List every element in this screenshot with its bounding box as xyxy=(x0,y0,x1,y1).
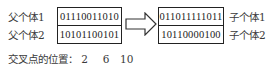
crossover-label: 交叉点的位置： xyxy=(8,53,78,65)
parent-chromosome-box: 01110011010 10101100101 xyxy=(57,7,122,44)
child-1-label: 子个体1 xyxy=(229,11,266,23)
crossover-positions: 交叉点的位置： 2 6 10 xyxy=(8,51,133,66)
child-2-chromosome: 10110000100 xyxy=(159,26,223,44)
crossover-position-1: 2 xyxy=(81,53,99,65)
child-2-label: 子个体2 xyxy=(229,29,266,41)
parent-2-chromosome: 10101100101 xyxy=(58,26,121,44)
crossover-position-2: 6 xyxy=(103,53,117,65)
crossover-position-3: 10 xyxy=(120,53,133,65)
parent-2-label: 父个体2 xyxy=(8,29,45,41)
child-chromosome-box: 011011111011 10110000100 xyxy=(158,7,224,44)
right-arrow-icon xyxy=(125,12,157,36)
child-1-chromosome: 011011111011 xyxy=(159,8,223,26)
parent-1-chromosome: 01110011010 xyxy=(58,8,121,26)
parent-1-label: 父个体1 xyxy=(8,11,45,23)
